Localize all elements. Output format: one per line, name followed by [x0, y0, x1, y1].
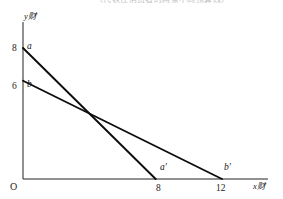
origin-label: O [10, 182, 17, 192]
y-tick-label-6: 6 [12, 82, 17, 92]
budget-line-figure: 〔代表性消费者的两条不同预算线〕 y财 x财 O 8 6 8 12 a b a′… [0, 0, 283, 199]
point-label-a: a [27, 42, 32, 52]
x-tick-label-12: 12 [216, 184, 226, 194]
x-axis-label: x财 [253, 182, 266, 191]
point-label-b: b [27, 80, 32, 90]
y-axis-label: y财 [24, 12, 37, 21]
budget-line-bb-prime [23, 81, 222, 179]
point-label-a-prime: a′ [160, 163, 167, 173]
point-label-b-prime: b′ [224, 163, 231, 173]
budget-line-plot [0, 0, 283, 199]
y-tick-label-8: 8 [12, 44, 17, 54]
x-tick-label-8: 8 [156, 184, 161, 194]
